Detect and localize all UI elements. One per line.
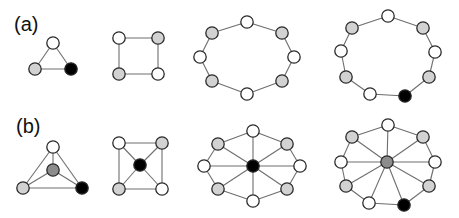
graph-edge [346,162,387,186]
graph-node-gray [206,27,218,39]
graph-edge [387,162,404,205]
graph-node-white [288,51,300,63]
graph-b-square-wheel [113,137,168,195]
graph-node-white [335,45,347,57]
graph-node-white [429,156,441,168]
graph-node-gray [417,131,429,143]
graph-a-square [113,32,164,80]
graph-node-white [47,141,59,153]
graph-node-white [364,88,376,100]
graph-node-gray [212,183,224,195]
graph-edge [387,162,429,186]
graph-node-gray [281,138,293,150]
graph-b-nonagon-wheel [335,119,441,211]
graph-node-white [113,137,125,149]
graph-node-black [134,159,146,171]
graph-node-black [65,63,77,75]
graph-node-gray [281,183,293,195]
graph-node-white [152,68,164,80]
graph-node-white [241,88,253,100]
graph-node-gray [276,75,288,87]
graph-node-dark-gray [47,164,59,176]
graph-node-gray [346,131,358,143]
graph-node-white [382,10,394,22]
graph-node-white [247,195,259,207]
graph-node-white [47,37,59,49]
graph-node-gray [152,32,164,44]
graph-canvas [0,0,459,218]
graph-node-gray [156,137,168,149]
graph-node-white [363,197,375,209]
graph-node-black [399,90,411,102]
graph-a-nonagon [335,10,441,102]
graph-node-gray [417,22,429,34]
graph-node-gray [113,68,125,80]
graph-node-gray [346,22,358,34]
graph-b-octagon-wheel [198,125,306,207]
graph-node-gray [423,71,435,83]
graph-node-white [247,125,259,137]
graph-node-gray [17,182,29,194]
graph-node-gray [340,71,352,83]
graph-node-white [113,32,125,44]
graph-node-white [156,183,168,195]
graph-node-dark-gray [381,156,393,168]
graph-node-white [294,160,306,172]
graph-a-octagon [194,16,300,100]
graph-node-white [335,156,347,168]
graph-node-white [429,46,441,58]
graph-node-gray [276,27,288,39]
graph-node-gray [340,180,352,192]
graph-node-black [247,160,259,172]
graph-node-gray [29,63,41,75]
graph-node-white [198,160,210,172]
graph-node-white [241,16,253,28]
graph-node-gray [206,75,218,87]
graph-a-triangle [29,37,77,75]
graph-b-triangle-wheel [17,141,88,194]
graph-node-gray [423,180,435,192]
graph-node-black [76,182,88,194]
graph-node-white [194,51,206,63]
graph-node-gray [212,138,224,150]
graph-node-black [398,199,410,211]
graph-node-white [382,119,394,131]
graph-node-gray [113,183,125,195]
